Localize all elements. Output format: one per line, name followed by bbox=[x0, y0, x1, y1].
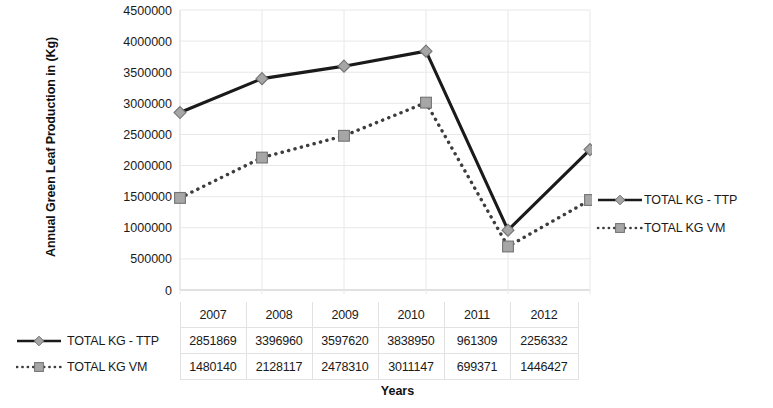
svg-text:4000000: 4000000 bbox=[123, 35, 172, 49]
table-series-label: TOTAL KG - TTP bbox=[62, 334, 163, 348]
data-point-marker bbox=[503, 241, 514, 252]
series-line-1 bbox=[180, 103, 590, 247]
table-cell-value: 699371 bbox=[444, 354, 510, 380]
legend-key-vm bbox=[596, 221, 644, 235]
svg-text:1500000: 1500000 bbox=[123, 190, 172, 204]
table-cell-value: 3597620 bbox=[312, 328, 378, 354]
table-series-key-cell: TOTAL KG VM bbox=[14, 354, 180, 380]
y-axis-tick-labels: 0500000100000015000002000000250000030000… bbox=[123, 4, 172, 298]
data-point-marker bbox=[585, 195, 592, 206]
data-point-marker bbox=[339, 130, 350, 141]
gridlines bbox=[180, 10, 590, 290]
axis-lines bbox=[180, 10, 590, 294]
svg-text:2000000: 2000000 bbox=[123, 159, 172, 173]
svg-text:4500000: 4500000 bbox=[123, 4, 172, 18]
x-axis-title-text: Years bbox=[359, 384, 414, 398]
chart-plot-svg: 0500000100000015000002000000250000030000… bbox=[96, 2, 592, 302]
series-key-icon-vm bbox=[16, 360, 62, 374]
series-layer bbox=[174, 45, 592, 252]
legend-item-vm: TOTAL KG VM bbox=[596, 214, 773, 242]
table-header-year: 2012 bbox=[510, 302, 578, 328]
data-point-marker bbox=[174, 107, 186, 119]
data-point-marker bbox=[256, 73, 268, 85]
data-point-marker bbox=[257, 152, 268, 163]
data-point-marker bbox=[421, 97, 432, 108]
data-point-marker bbox=[175, 193, 186, 204]
legend-key-ttp bbox=[596, 193, 644, 207]
table-header-year: 2010 bbox=[378, 302, 444, 328]
table-cell-value: 3011147 bbox=[378, 354, 444, 380]
table-corner-cell bbox=[14, 302, 180, 328]
table-cell-value: 1446427 bbox=[510, 354, 578, 380]
svg-text:3000000: 3000000 bbox=[123, 97, 172, 111]
plot-area: 0500000100000015000002000000250000030000… bbox=[96, 2, 592, 302]
table-cell-value: 3838950 bbox=[378, 328, 444, 354]
svg-text:1000000: 1000000 bbox=[123, 221, 172, 235]
table-header-year: 2007 bbox=[180, 302, 246, 328]
y-axis-title: Annual Green Leaf Production in (Kg) bbox=[44, 0, 58, 297]
chart-figure: Annual Green Leaf Production in (Kg) 050… bbox=[0, 0, 773, 408]
data-table: 200720082009201020112012TOTAL KG - TTP28… bbox=[14, 302, 579, 380]
table-series-label: TOTAL KG VM bbox=[62, 360, 151, 374]
table-cell-value: 2256332 bbox=[510, 328, 578, 354]
table-cell-value: 3396960 bbox=[246, 328, 312, 354]
x-axis-title: Years bbox=[0, 384, 773, 398]
data-point-marker bbox=[420, 45, 432, 57]
legend-item-ttp: TOTAL KG - TTP bbox=[596, 186, 773, 214]
table-cell-value: 2478310 bbox=[312, 354, 378, 380]
legend-label-vm: TOTAL KG VM bbox=[644, 221, 725, 235]
table-header-row: 200720082009201020112012 bbox=[14, 302, 578, 328]
table-header-year: 2011 bbox=[444, 302, 510, 328]
table-row: TOTAL KG VM14801402128117247831030111476… bbox=[14, 354, 578, 380]
svg-text:500000: 500000 bbox=[130, 252, 172, 266]
svg-text:3500000: 3500000 bbox=[123, 66, 172, 80]
table-cell-value: 2128117 bbox=[246, 354, 312, 380]
legend-label-ttp: TOTAL KG - TTP bbox=[644, 193, 737, 207]
table-header-year: 2008 bbox=[246, 302, 312, 328]
chart-legend: TOTAL KG - TTP TOTAL KG VM bbox=[596, 186, 773, 242]
data-point-marker bbox=[338, 60, 350, 72]
series-key-icon-ttp bbox=[16, 334, 62, 348]
svg-text:0: 0 bbox=[165, 284, 172, 298]
svg-text:2500000: 2500000 bbox=[123, 128, 172, 142]
table-row: TOTAL KG - TTP28518693396960359762038389… bbox=[14, 328, 578, 354]
table-cell-value: 2851869 bbox=[180, 328, 246, 354]
table-cell-value: 1480140 bbox=[180, 354, 246, 380]
series-line-0 bbox=[180, 51, 590, 230]
table-cell-value: 961309 bbox=[444, 328, 510, 354]
table-series-key-cell: TOTAL KG - TTP bbox=[14, 328, 180, 354]
table-header-year: 2009 bbox=[312, 302, 378, 328]
